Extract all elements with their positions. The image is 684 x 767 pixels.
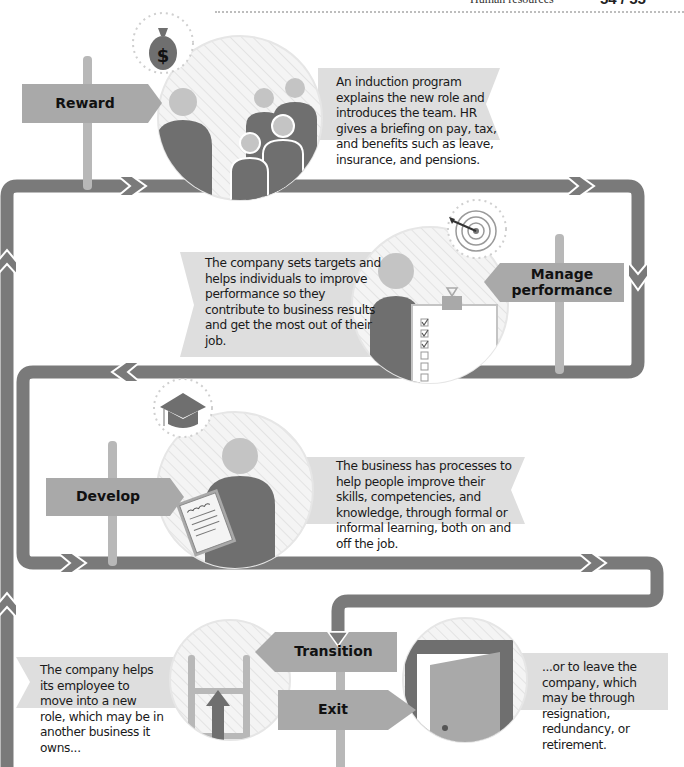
reward-sign-label: Reward [22, 95, 148, 112]
door-icon [405, 640, 513, 767]
reward-description: An induction program explains the new ro… [336, 75, 501, 169]
manage-performance-sign-label: Manage performance [500, 266, 624, 298]
transition-sign-label: Transition [270, 643, 397, 660]
develop-sign-label: Develop [46, 488, 170, 505]
exit-description: ...or to leave the company, which may be… [542, 660, 654, 754]
manage-performance-sign-post [555, 234, 564, 374]
svg-text:$: $ [157, 45, 170, 66]
manage-performance-sign-line2: performance [500, 282, 624, 298]
exit-sign-label: Exit [278, 701, 388, 718]
develop-description: The business has processes to help peopl… [336, 459, 516, 553]
path-arrows [0, 176, 648, 646]
manage-performance-description: The company sets targets and helps indiv… [205, 256, 385, 350]
manage-performance-sign-line1: Manage [500, 266, 624, 282]
transition-description: The company helps its employee to move i… [40, 663, 165, 757]
